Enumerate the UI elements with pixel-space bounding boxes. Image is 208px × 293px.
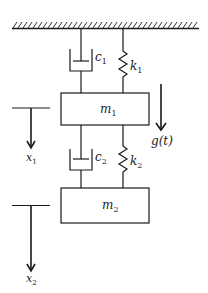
displacement-x2-label: x2 [26, 272, 37, 287]
displacement-x1-arrow-icon [12, 108, 50, 148]
spring-k1-label: k1 [130, 59, 142, 75]
mass-m2-label: m2 [102, 198, 118, 214]
force-label: g(t) [151, 134, 173, 148]
spring-k2-label: k2 [130, 154, 142, 170]
mass-m1-label: m1 [100, 102, 116, 118]
displacement-x1-label: x1 [26, 151, 37, 166]
force-arrow-icon [156, 84, 166, 130]
damper-c2 [70, 125, 92, 188]
spring-k1 [119, 29, 127, 93]
damper-c1 [70, 29, 92, 93]
ground-support [12, 22, 199, 29]
mass-spring-damper-diagram: c1 k1 m1 g(t) x1 c2 k2 m2 x2 [0, 0, 208, 293]
damper-c1-label: c1 [95, 50, 107, 66]
damper-c2-label: c2 [95, 150, 107, 166]
spring-k2 [119, 125, 127, 188]
displacement-x2-arrow-icon [12, 205, 50, 271]
